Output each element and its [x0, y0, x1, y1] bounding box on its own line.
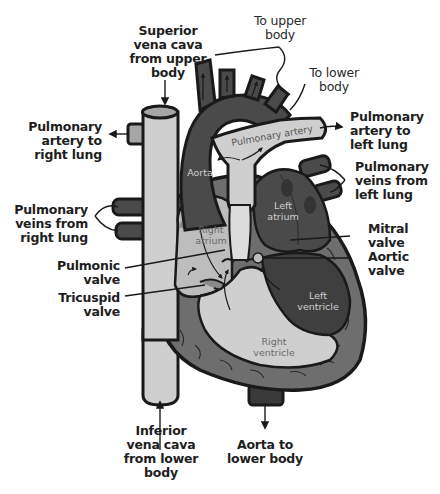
label-right-ventricle: Right ventricle: [244, 336, 304, 358]
label-pulmonary-artery-left-lung: Pulmonary artery to left lung: [350, 110, 440, 152]
label-mitral-valve: Mitral valve: [368, 222, 438, 250]
label-pulmonary-veins-left-lung: Pulmonary veins from left lung: [355, 160, 440, 202]
label-to-lower-body: To lower body: [294, 66, 374, 94]
label-to-upper-body: To upper body: [240, 14, 320, 42]
label-pulmonary-artery-right-lung: Pulmonary artery to right lung: [10, 120, 102, 162]
label-right-atrium: Right atrium: [186, 224, 236, 246]
superior-vena-cava: [143, 106, 179, 340]
label-aortic-valve: Aortic valve: [368, 250, 438, 278]
label-left-atrium: Left atrium: [258, 200, 308, 222]
label-pulmonic-valve: Pulmonic valve: [40, 259, 120, 287]
label-aorta-inner: Aorta: [180, 167, 220, 178]
label-left-ventricle: Left ventricle: [288, 290, 348, 312]
label-superior-vena-cava: Superior vena cava from upper body: [128, 24, 208, 80]
label-pulmonary-veins-right-lung: Pulmonary veins from right lung: [0, 203, 88, 245]
label-tricuspid-valve: Tricuspid valve: [40, 291, 120, 319]
label-aorta-to-lower-body: Aorta to lower body: [222, 438, 308, 466]
label-inferior-vena-cava: Inferior vena cava from lower body: [118, 424, 204, 480]
